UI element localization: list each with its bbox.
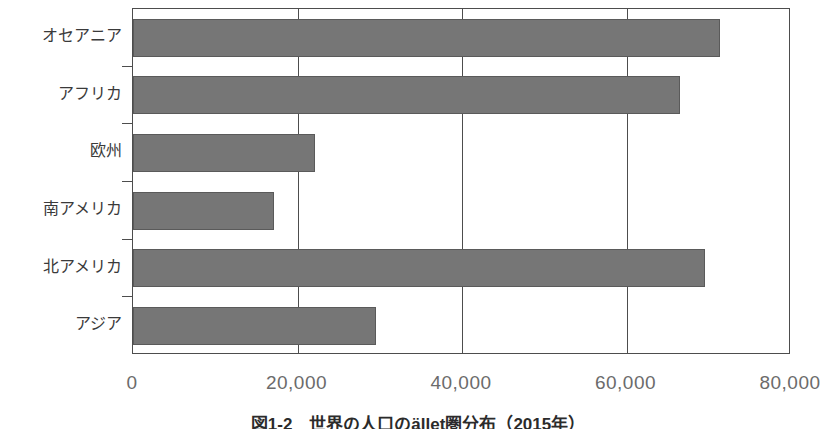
bar xyxy=(133,19,720,57)
bar-row xyxy=(133,124,789,182)
bar-chart-figure: オセアニアアフリカ欧州南アメリカ北アメリカアジア 020,00040,00060… xyxy=(0,0,836,429)
bar xyxy=(133,249,705,287)
x-axis-tick-label: 20,000 xyxy=(266,372,327,394)
figure-caption: 図1-2 世界の人口のället圏分布（2015年） xyxy=(0,410,836,429)
x-axis-tick-label: 0 xyxy=(126,372,137,394)
category-label: 北アメリカ xyxy=(0,259,122,275)
category-label: 南アメリカ xyxy=(0,201,122,217)
y-axis-tick xyxy=(122,66,132,67)
plot-area xyxy=(132,8,790,354)
bar-row xyxy=(133,297,789,355)
category-label: アフリカ xyxy=(0,86,122,102)
y-axis-tick xyxy=(122,239,132,240)
x-axis-tick-label: 60,000 xyxy=(595,372,656,394)
category-label: アジア xyxy=(0,316,122,332)
y-axis-tick xyxy=(122,181,132,182)
x-axis-tick-label: 40,000 xyxy=(430,372,491,394)
bar-row xyxy=(133,67,789,125)
bar-row xyxy=(133,182,789,240)
bar xyxy=(133,134,315,172)
bar-row xyxy=(133,9,789,67)
bar xyxy=(133,192,274,230)
bar xyxy=(133,307,376,345)
category-label: オセアニア xyxy=(0,28,122,44)
category-label: 欧州 xyxy=(0,143,122,159)
y-axis-tick xyxy=(122,123,132,124)
bar-row xyxy=(133,240,789,298)
bar xyxy=(133,76,680,114)
x-axis-tick-label: 80,000 xyxy=(759,372,820,394)
y-axis-tick xyxy=(122,296,132,297)
